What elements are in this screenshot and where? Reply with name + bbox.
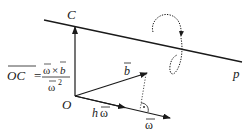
formula-den-omega: ω xyxy=(48,81,55,93)
label-c: C xyxy=(67,7,76,22)
vector-b xyxy=(75,73,147,96)
right-angle-dot xyxy=(143,106,145,108)
projection-line xyxy=(140,74,146,110)
label-h-omega: ω xyxy=(100,106,108,120)
formula-equals: = xyxy=(34,68,41,83)
formula-num-times: × xyxy=(52,64,58,76)
label-h: h xyxy=(92,106,98,120)
formula-num-omega: ω xyxy=(43,64,50,76)
label-omega: ω xyxy=(145,118,153,132)
formula-num-b: b xyxy=(60,64,66,76)
diagram-canvas: C O p b h ω ω OC = ω × b ω 2 xyxy=(0,0,249,132)
label-b: b xyxy=(124,64,130,78)
label-o: O xyxy=(62,97,72,112)
line-p xyxy=(44,20,242,62)
label-p: p xyxy=(232,66,240,81)
formula-lhs: OC xyxy=(7,68,25,83)
rotation-spiral xyxy=(152,14,181,36)
formula-den-exp: 2 xyxy=(58,78,62,87)
rotation-spiral-lower xyxy=(170,38,182,74)
